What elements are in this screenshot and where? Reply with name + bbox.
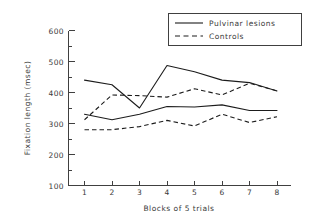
x-tick-label-8: 8 — [274, 188, 279, 197]
series-pulvinar-lesions-upper — [85, 66, 278, 108]
x-tick-label-5: 5 — [192, 188, 197, 197]
y-tick-label-600: 600 — [48, 27, 64, 36]
y-tick-label-300: 300 — [48, 120, 64, 129]
y-axis-title: Fixation length (msec) — [23, 61, 32, 156]
legend: Pulvinar lesions Controls — [169, 14, 302, 46]
line-chart: 600 500 400 300 200 100 1 2 3 4 5 6 7 8 … — [0, 0, 311, 224]
y-axis — [69, 31, 75, 186]
x-tick-label-3: 3 — [137, 188, 142, 197]
x-axis — [69, 181, 291, 186]
y-tick-label-200: 200 — [48, 151, 64, 160]
y-tick-label-400: 400 — [48, 89, 64, 98]
y-tick-label-100: 100 — [48, 182, 64, 191]
chart-figure: 600 500 400 300 200 100 1 2 3 4 5 6 7 8 … — [0, 0, 311, 224]
x-tick-label-7: 7 — [247, 188, 252, 197]
x-tick-label-2: 2 — [109, 188, 114, 197]
series-group — [85, 66, 278, 130]
x-tick-label-4: 4 — [164, 188, 169, 197]
x-axis-title: Blocks of 5 trials — [143, 204, 214, 213]
series-controls-lower — [85, 114, 278, 130]
series-pulvinar-lesions-lower — [85, 105, 278, 120]
legend-label-pulvinar-lesions: Pulvinar lesions — [209, 19, 276, 28]
y-tick-label-500: 500 — [48, 58, 64, 67]
x-tick-label-1: 1 — [82, 188, 87, 197]
legend-label-controls: Controls — [209, 32, 244, 41]
x-tick-label-6: 6 — [219, 188, 224, 197]
series-controls-upper — [85, 83, 278, 120]
